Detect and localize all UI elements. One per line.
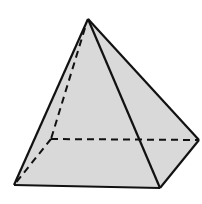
square-pyramid-diagram: [0, 0, 202, 204]
pyramid-fill: [14, 19, 199, 188]
